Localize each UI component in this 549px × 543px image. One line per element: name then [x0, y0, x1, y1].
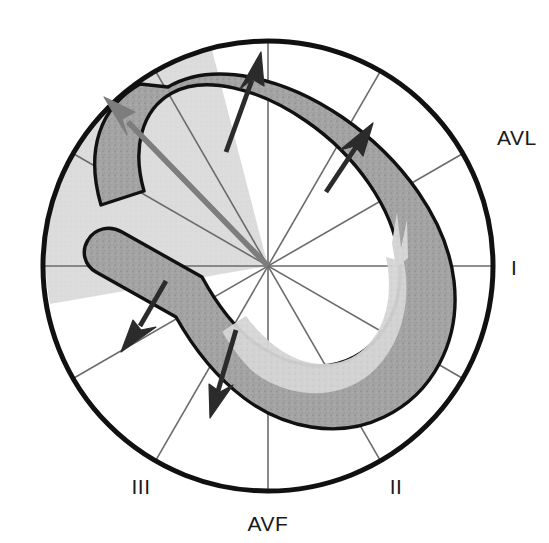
lead-label-ii: II [390, 475, 403, 498]
lead-label-iii: III [131, 475, 150, 498]
lead-label-avf: AVF [248, 512, 289, 535]
hexaxial-reference-diagram: AVL I II III AVF [0, 0, 549, 543]
lead-label-avl: AVL [497, 126, 537, 149]
instantaneous-vector-arrow-upper-left [226, 52, 264, 152]
figure-root: AVL I II III AVF [0, 0, 549, 543]
lead-label-i: I [511, 256, 517, 279]
